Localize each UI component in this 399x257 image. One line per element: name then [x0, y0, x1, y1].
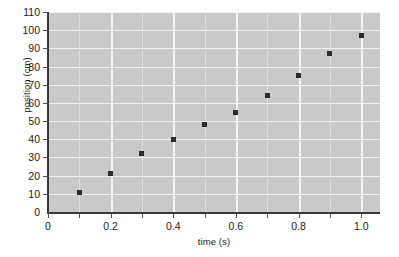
scatter-chart-figure: position (cm) 01020304050607080901001100…	[0, 0, 399, 257]
data-point	[202, 122, 207, 127]
y-tick-mark	[43, 85, 48, 86]
data-point	[265, 93, 270, 98]
x-tick-label: 0	[28, 220, 68, 232]
data-point	[359, 33, 364, 38]
x-tick-mark	[267, 213, 268, 218]
y-tick-mark	[43, 30, 48, 31]
gridline-vertical	[205, 12, 206, 212]
y-tick-label: 90	[0, 43, 40, 53]
y-tick-label: 40	[0, 134, 40, 144]
data-point	[233, 110, 238, 115]
x-tick-mark	[48, 213, 49, 218]
x-tick-mark	[330, 213, 331, 218]
x-tick-mark	[205, 213, 206, 218]
x-tick-mark	[361, 213, 362, 218]
data-point	[108, 171, 113, 176]
x-tick-label: 0.8	[279, 220, 319, 232]
y-tick-mark	[43, 157, 48, 158]
x-tick-mark	[79, 213, 80, 218]
y-tick-mark	[43, 139, 48, 140]
x-tick-mark	[236, 213, 237, 218]
y-tick-label: 110	[0, 7, 40, 17]
gridline-vertical	[79, 12, 80, 212]
y-tick-mark	[43, 194, 48, 195]
gridline-vertical	[361, 12, 363, 212]
y-tick-mark	[43, 12, 48, 13]
y-tick-label: 20	[0, 171, 40, 181]
y-tick-label: 30	[0, 152, 40, 162]
x-tick-mark	[142, 213, 143, 218]
y-tick-label: 0	[0, 207, 40, 217]
y-tick-label: 50	[0, 116, 40, 126]
x-tick-mark	[173, 213, 174, 218]
data-point	[139, 151, 144, 156]
gridline-vertical	[111, 12, 113, 212]
y-tick-label: 60	[0, 98, 40, 108]
y-tick-label: 100	[0, 25, 40, 35]
gridline-vertical	[267, 12, 268, 212]
x-tick-label: 0.2	[91, 220, 131, 232]
data-point	[171, 137, 176, 142]
x-tick-label: 0.6	[216, 220, 256, 232]
y-tick-label: 70	[0, 80, 40, 90]
x-tick-mark	[111, 213, 112, 218]
data-point	[327, 51, 332, 56]
y-tick-mark	[43, 176, 48, 177]
x-tick-mark	[299, 213, 300, 218]
data-point	[77, 190, 82, 195]
x-tick-label: 0.4	[153, 220, 193, 232]
gridline-vertical	[142, 12, 143, 212]
y-tick-mark	[43, 67, 48, 68]
x-tick-label: 1.0	[341, 220, 381, 232]
gridline-vertical	[330, 12, 331, 212]
x-axis-title: time (s)	[48, 236, 380, 247]
y-axis-line	[47, 12, 49, 213]
gridline-vertical	[173, 12, 175, 212]
y-tick-mark	[43, 121, 48, 122]
data-point	[296, 73, 301, 78]
y-tick-label: 80	[0, 62, 40, 72]
gridline-vertical	[299, 12, 301, 212]
y-tick-label: 10	[0, 189, 40, 199]
y-tick-mark	[43, 103, 48, 104]
y-tick-mark	[43, 48, 48, 49]
plot-area	[48, 12, 380, 212]
